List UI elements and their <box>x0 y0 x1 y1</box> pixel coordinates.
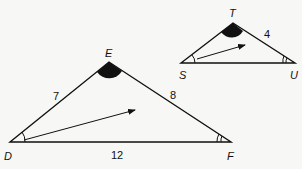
angle-f-arc-outer <box>217 134 219 142</box>
side-label-df: 12 <box>111 149 123 161</box>
side-label-de: 7 <box>53 90 59 102</box>
angle-t-filled-arc <box>221 23 243 38</box>
rotation-arrow-small <box>197 45 245 59</box>
angle-e-filled-arc <box>97 62 122 78</box>
triangle-def-outline <box>10 62 231 142</box>
triangle-def <box>10 62 231 142</box>
triangle-stu <box>181 23 295 63</box>
vertex-label-s: S <box>179 69 187 81</box>
vertex-label-t: T <box>229 7 237 19</box>
vertex-label-f: F <box>227 150 235 162</box>
similar-triangles-diagram: E D F 7 8 12 T S U 4 <box>0 0 302 169</box>
angle-u-arc-outer <box>283 56 284 63</box>
side-label-tu: 4 <box>264 28 270 40</box>
angle-d-arc <box>22 132 25 142</box>
side-label-ef: 8 <box>170 89 176 101</box>
angle-s-arc <box>192 55 195 63</box>
vertex-label-e: E <box>105 47 113 59</box>
rotation-arrow-large <box>24 110 135 140</box>
angle-f-arc-inner <box>221 136 222 142</box>
vertex-label-u: U <box>290 69 298 81</box>
angle-u-arc-inner <box>286 58 287 63</box>
vertex-label-d: D <box>4 150 12 162</box>
